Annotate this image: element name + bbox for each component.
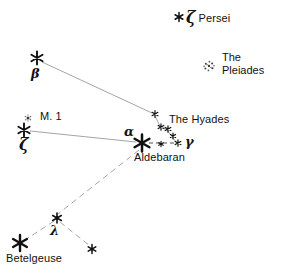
star-zeta-persei[interactable]: [175, 13, 183, 22]
line-lambda-to-orion-star: [60, 222, 90, 246]
label-zeta-tauri: ζ: [19, 137, 28, 154]
star-orion-lower[interactable]: [88, 245, 96, 254]
label-aldebaran: Aldebaran: [134, 152, 185, 164]
sky-canvas: [0, 0, 284, 270]
star-hyades-mid[interactable]: [159, 141, 164, 146]
label-beta-tauri: β: [31, 67, 40, 81]
label-zeta-persei: ζ Persei: [186, 10, 230, 27]
star-gamma-tauri[interactable]: [175, 140, 181, 146]
star-beta-tauri[interactable]: [31, 52, 42, 65]
label-the-pleiades: The Pleiades: [222, 51, 284, 78]
star-cluster-pleiades[interactable]: [203, 61, 215, 71]
line-beta-to-hyades: [42, 62, 152, 113]
star-aldebaran[interactable]: [135, 135, 150, 152]
line-zeta-to-aldebaran: [30, 131, 136, 142]
nebula-messier-1[interactable]: [25, 114, 32, 121]
label-zeta-persei-name: Persei: [198, 13, 230, 25]
label-zeta-persei-greek: ζ: [186, 10, 195, 27]
star-hyades-1[interactable]: [152, 111, 158, 118]
label-pleiades-line1: The: [222, 51, 241, 63]
label-pleiades-line2: Pleiades: [222, 64, 264, 76]
label-the-hyades: The Hyades: [169, 114, 229, 126]
star-betelgeuse[interactable]: [13, 235, 27, 251]
stars-layer: [13, 13, 215, 254]
label-alpha-tauri: α: [124, 125, 134, 139]
label-messier-1: M. 1: [40, 111, 62, 123]
label-betelgeuse: Betelgeuse: [6, 253, 62, 265]
label-lambda-orionis: λ: [50, 224, 59, 238]
star-chart: ζ Persei The Pleiades β M. 1 ζ The Hyade…: [0, 0, 284, 270]
line-aldebaran-to-lambda: [58, 150, 139, 214]
label-gamma-tauri: γ: [185, 135, 194, 149]
